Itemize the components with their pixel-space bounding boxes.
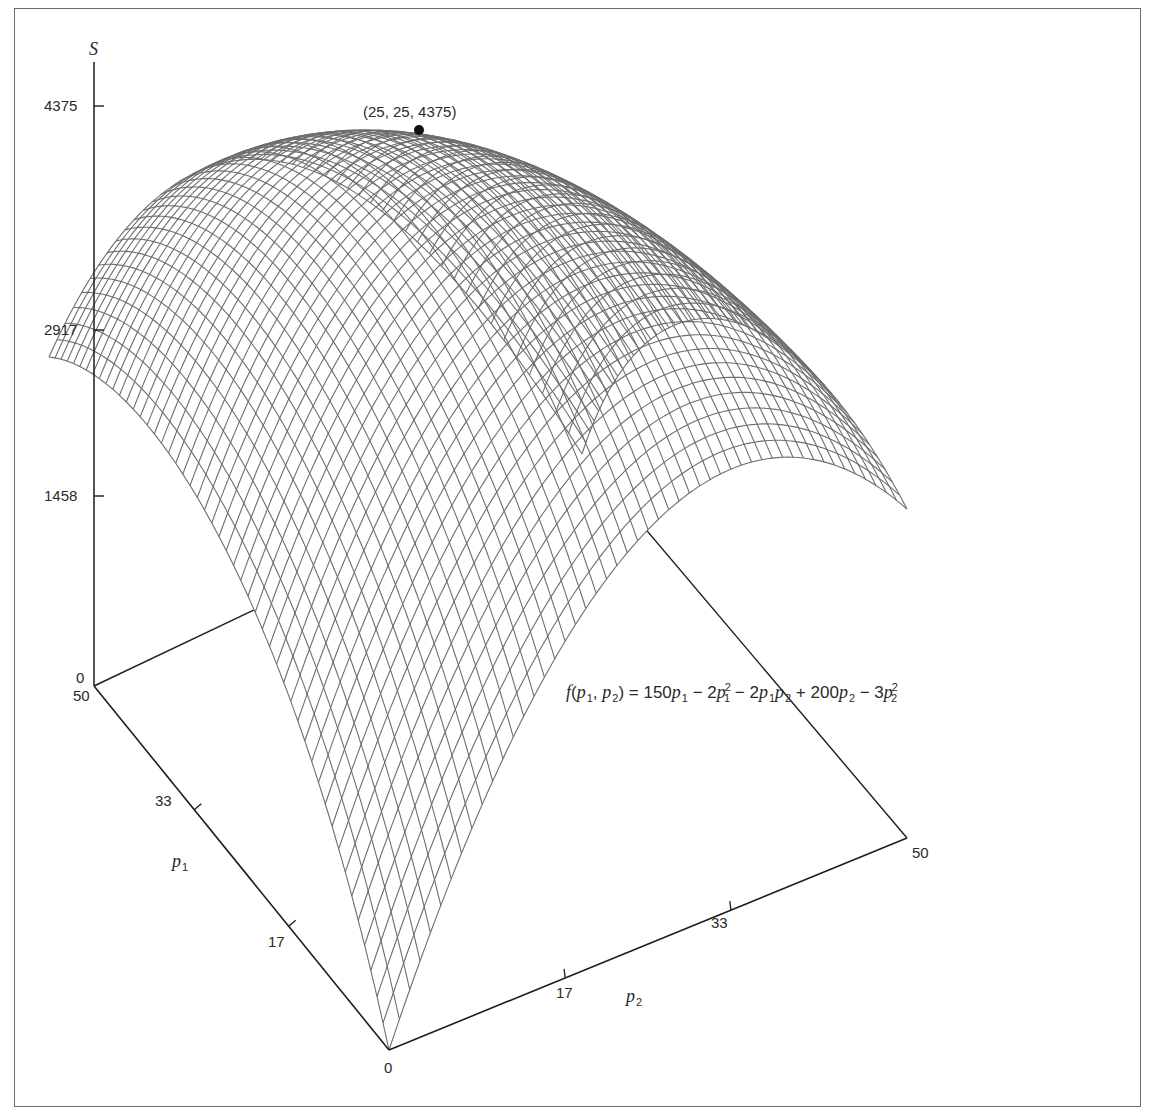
formula-comma: , — [593, 683, 602, 702]
formula-term: + 200 — [791, 683, 839, 702]
p2-axis-label: p2 — [626, 987, 642, 1005]
formula-var: p — [577, 682, 586, 702]
formula-term: = 150 — [624, 683, 672, 702]
z-tick-2917: 2917 — [44, 322, 77, 337]
p1-axis-letter: p — [172, 851, 181, 871]
origin-label: 0 — [384, 1060, 392, 1075]
function-formula: f(p1, p2) = 150p1 − 2p21 − 2p1p2 + 200p2… — [566, 682, 897, 703]
p1-axis-label: p1 — [172, 852, 188, 870]
p1-axis-subscript: 1 — [182, 861, 188, 873]
formula-var: p — [602, 682, 611, 702]
p2-tick-33: 33 — [711, 915, 728, 930]
p1-tick-50: 50 — [73, 688, 90, 703]
z-axis-label: S — [89, 40, 98, 58]
p2-axis-letter: p — [626, 986, 635, 1006]
z-tick-0: 0 — [76, 670, 84, 685]
formula-sub: 1 — [724, 692, 730, 704]
formula-var: p — [839, 682, 848, 702]
z-tick-4375: 4375 — [44, 98, 77, 113]
p2-axis-subscript: 2 — [636, 996, 642, 1008]
formula-sub: 1 — [769, 692, 775, 704]
formula-sub: 2 — [785, 692, 791, 704]
formula-term: − 3 — [855, 683, 884, 702]
formula-term: − 2 — [730, 683, 759, 702]
maximum-point-marker — [414, 125, 424, 135]
surface-mesh — [49, 130, 907, 1050]
p1-tick-33: 33 — [155, 793, 172, 808]
formula-var: p — [775, 682, 784, 702]
p1-tick-17: 17 — [268, 934, 285, 949]
formula-term: − 2 — [688, 683, 717, 702]
formula-sub: 2 — [849, 692, 855, 704]
surface-plot — [0, 0, 1151, 1118]
formula-sub: 1 — [587, 692, 593, 704]
p2-tick-17: 17 — [556, 985, 573, 1000]
formula-sub: 2 — [891, 692, 897, 704]
formula-sub: 2 — [612, 692, 618, 704]
z-tick-1458: 1458 — [44, 488, 77, 503]
formula-sub: 1 — [682, 692, 688, 704]
p2-tick-50: 50 — [912, 845, 929, 860]
formula-var: p — [759, 682, 768, 702]
formula-var: p — [672, 682, 681, 702]
maximum-point-label: (25, 25, 4375) — [363, 104, 456, 119]
